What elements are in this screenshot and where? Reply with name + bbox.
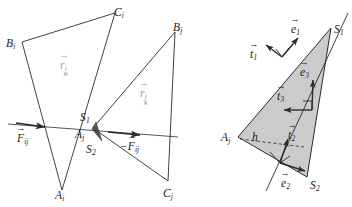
label-vector-e3: →e3 [300,63,309,79]
label-S2-right: S2 [310,176,320,192]
label-vector-e2: →e2 [281,174,290,190]
label-vector-e1: →e1 [291,20,300,36]
label-height-h: h [252,128,258,144]
right-angle-marker-1 [276,48,289,57]
label-Bi: Bi [6,34,15,50]
label-S1-left: S1 [80,108,90,124]
label-Ai: Ai [55,186,64,202]
vector-t1 [266,45,282,57]
left-panel-art [8,13,178,190]
label-Cj: Cj [163,184,173,200]
label-Bj: Bj [173,18,182,34]
centroid-marker-i: × [63,69,68,79]
label-vector-t1: →t1 [250,45,257,61]
centroid-marker-j: × [143,98,148,108]
geometry-figure: Bi Ci Ai Bj Cj Aj S1 S2 →ri × →rj × →Fij… [0,0,352,207]
label-Ci: Ci [114,3,124,19]
label-Aj-right: Aj [221,128,230,144]
label-vector-t2: →t2 [288,126,295,142]
triangle-j-outline [93,32,175,181]
label-Aj-left: Aj [75,125,84,141]
label-vector-Fij-negative: −→Fij [120,137,139,153]
overlap-sliver [92,122,102,141]
label-vector-t3: →t3 [277,87,284,103]
label-S1-right: S1 [334,20,344,36]
label-S2-left: S2 [86,140,96,156]
label-vector-Fij: →Fij [17,129,28,145]
triangle-i-outline [22,13,115,190]
